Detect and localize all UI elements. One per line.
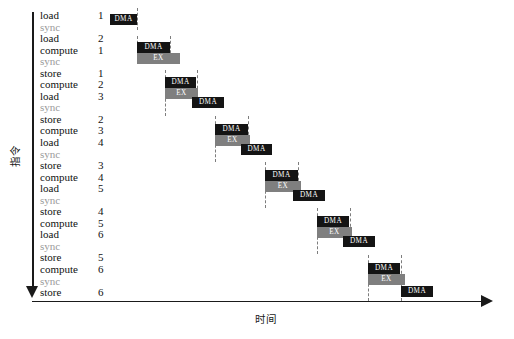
dma-bar: DMA xyxy=(265,170,298,181)
dma-bar: DMA xyxy=(110,14,137,25)
dma-bar: DMA xyxy=(241,144,272,155)
dma-bar: DMA xyxy=(137,42,170,53)
dma-bar: DMA xyxy=(293,190,325,201)
dma-bar: DMA xyxy=(165,77,196,88)
dma-bar: DMA xyxy=(192,97,224,108)
dma-bar: DMA xyxy=(368,263,400,274)
ex-bar: EX xyxy=(368,274,405,285)
ex-bar: EX xyxy=(137,53,180,64)
timeline-plot-area: DMADMAEXDMAEXDMADMAEXDMADMAEXDMADMAEXDMA… xyxy=(0,0,514,339)
dma-bar: DMA xyxy=(343,236,375,247)
dma-bar: DMA xyxy=(401,286,433,297)
dma-bar: DMA xyxy=(215,124,248,135)
dma-bar: DMA xyxy=(317,216,349,227)
pipeline-timeline-figure: 指令 时间 load1syncload2compute1syncstore1co… xyxy=(0,0,514,339)
